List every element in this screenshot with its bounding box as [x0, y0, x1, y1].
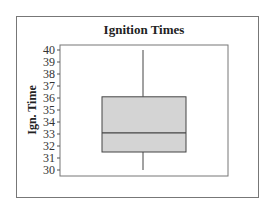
y-tick-label: 33	[43, 127, 55, 141]
y-tick-label: 39	[43, 55, 55, 69]
y-tick-label: 30	[43, 163, 55, 177]
y-tick-label: 38	[43, 67, 55, 81]
y-tick-label: 35	[43, 103, 55, 117]
y-tick-label: 40	[43, 43, 55, 57]
box-plot: 3031323334353637383940	[0, 0, 273, 207]
y-tick-label: 36	[43, 91, 55, 105]
iqr-box	[102, 97, 186, 152]
y-tick-label: 34	[43, 115, 55, 129]
y-tick-label: 31	[43, 151, 55, 165]
y-tick-label: 32	[43, 139, 55, 153]
y-tick-label: 37	[43, 79, 55, 93]
